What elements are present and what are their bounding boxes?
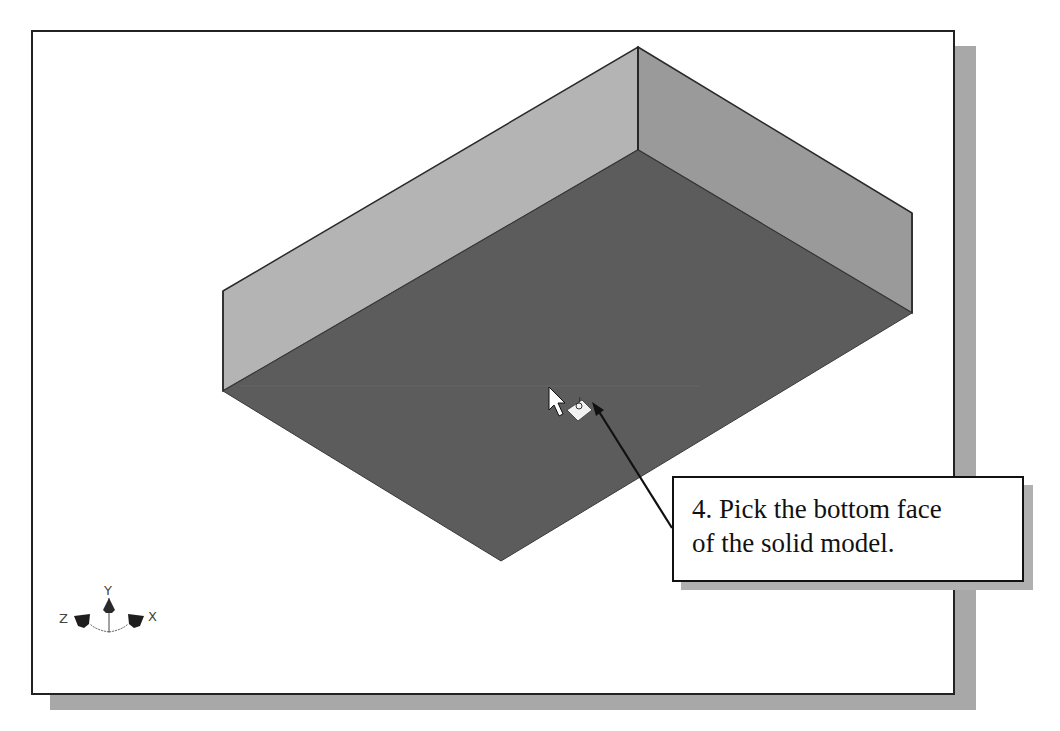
x-axis-label: X <box>148 610 157 623</box>
z-axis-label: Z <box>59 612 68 625</box>
callout-text-line-2: of the solid model. <box>692 526 1004 560</box>
x-axis-cone-icon <box>128 614 144 628</box>
z-axis-cone-icon <box>74 614 90 628</box>
y-axis-label: Y <box>104 584 112 597</box>
y-axis-cone-icon <box>103 598 115 613</box>
axis-triad: Y Z X <box>56 586 166 646</box>
instruction-callout: 4. Pick the bottom face of the solid mod… <box>672 476 1024 582</box>
callout-text-line-1: 4. Pick the bottom face <box>692 492 1004 526</box>
